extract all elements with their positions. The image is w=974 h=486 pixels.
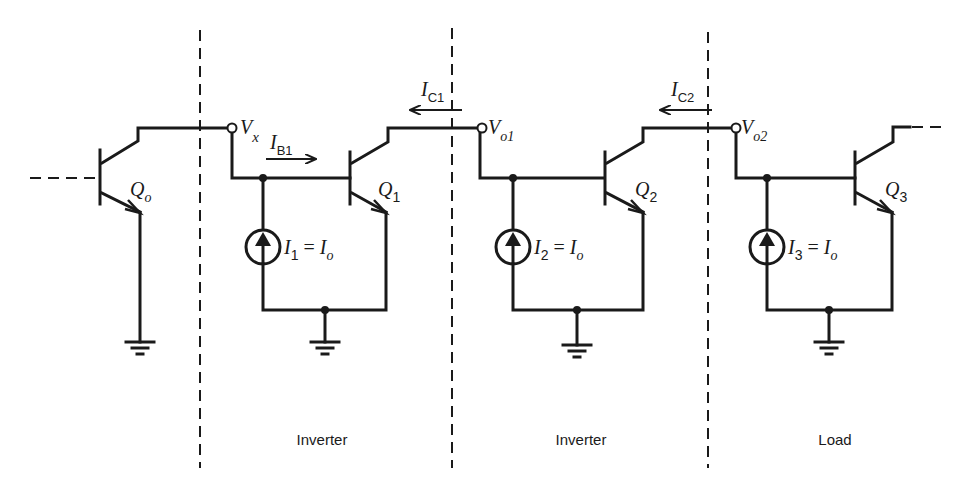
label-vo1: Vo1 xyxy=(488,116,514,144)
node-vx-terminal xyxy=(228,124,237,133)
label-i2: I2 = Io xyxy=(533,236,583,263)
ground-icon xyxy=(126,342,154,354)
label-ic2: IC2 xyxy=(670,78,694,105)
node-vo2-terminal xyxy=(732,124,741,133)
ground-icon xyxy=(311,342,339,354)
node-vo1-terminal xyxy=(478,124,487,133)
label-q0: Qo xyxy=(130,178,151,205)
ground-icon xyxy=(563,345,591,357)
section-label-inverter-2: Inverter xyxy=(556,431,607,448)
current-source-i1 xyxy=(246,230,280,264)
current-source-i3 xyxy=(750,230,784,264)
stage-3-load xyxy=(660,110,944,354)
circuit-diagram: Qo Q1 Q2 Q3 Vx Vo1 Vo2 IB1 IC1 IC2 I1 = … xyxy=(0,0,974,486)
transistor-q0 xyxy=(30,128,232,354)
transistor-q2 xyxy=(605,128,736,213)
label-q2: Q2 xyxy=(635,178,657,205)
section-label-load: Load xyxy=(818,431,851,448)
stage-2 xyxy=(410,110,736,357)
current-source-i2 xyxy=(496,230,530,264)
label-vx: Vx xyxy=(240,116,259,145)
label-ib1: IB1 xyxy=(269,131,293,158)
label-i3: I3 = Io xyxy=(787,236,837,263)
label-ic1: IC1 xyxy=(420,78,444,105)
transistor-q1 xyxy=(350,128,480,213)
label-vo2: Vo2 xyxy=(741,116,767,144)
section-label-inverter-1: Inverter xyxy=(297,431,348,448)
label-q3: Q3 xyxy=(885,178,907,205)
label-i1: I1 = Io xyxy=(283,236,333,263)
label-q1: Q1 xyxy=(378,178,400,205)
ground-icon xyxy=(815,342,843,354)
stage-1 xyxy=(228,124,481,355)
